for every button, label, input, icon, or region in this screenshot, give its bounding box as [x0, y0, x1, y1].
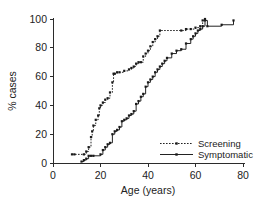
data-point-marker	[121, 120, 123, 122]
data-point-marker	[154, 38, 156, 40]
data-point-marker	[99, 153, 101, 155]
x-tick-label: 40	[142, 169, 154, 181]
data-point-marker	[111, 81, 113, 83]
data-point-marker	[116, 71, 118, 73]
data-point-marker	[109, 142, 111, 144]
data-point-marker	[147, 81, 149, 83]
chart-legend: Screening Symptomatic	[160, 138, 253, 160]
x-tick-label: 0	[50, 169, 56, 181]
data-point-marker	[133, 110, 135, 112]
data-point-marker	[98, 107, 100, 109]
data-point-marker	[133, 65, 135, 67]
data-point-marker	[130, 67, 132, 69]
x-axis-ticks: 020406080	[50, 163, 249, 181]
data-point-marker	[71, 153, 73, 155]
data-point-marker	[90, 155, 92, 157]
data-point-marker	[85, 150, 87, 152]
data-point-marker	[152, 41, 154, 43]
data-point-marker	[116, 129, 118, 131]
data-point-marker	[140, 61, 142, 63]
data-point-marker	[202, 19, 204, 21]
data-point-marker	[137, 100, 139, 102]
data-point-marker	[149, 45, 151, 47]
data-point-marker	[145, 52, 147, 54]
data-point-marker	[111, 133, 113, 135]
data-point-marker	[80, 160, 82, 162]
data-point-marker	[190, 38, 192, 40]
data-point-marker	[197, 29, 199, 31]
data-point-marker	[91, 130, 93, 132]
data-point-marker	[90, 136, 92, 138]
data-point-marker	[128, 68, 130, 70]
legend-entry-symptomatic: Symptomatic	[160, 149, 253, 160]
data-point-marker	[107, 143, 109, 145]
data-point-marker	[185, 42, 187, 44]
data-point-marker	[107, 97, 109, 99]
data-point-marker	[102, 101, 104, 103]
data-point-marker	[140, 96, 142, 98]
data-point-marker	[73, 153, 75, 155]
data-point-marker	[114, 73, 116, 75]
y-axis-title: % cases	[6, 71, 18, 111]
y-tick-label: 100	[29, 13, 47, 25]
data-point-marker	[123, 70, 125, 72]
data-point-marker	[185, 28, 187, 30]
data-point-marker	[161, 63, 163, 65]
data-point-marker	[97, 114, 99, 116]
data-point-marker	[164, 60, 166, 62]
data-point-marker	[128, 114, 130, 116]
data-point-marker	[154, 71, 156, 73]
data-point-marker	[156, 35, 158, 37]
data-point-marker	[232, 19, 234, 21]
x-tick-label: 80	[237, 169, 249, 181]
data-point-marker	[118, 126, 120, 128]
cumulative-age-distribution-chart: 020406080100 020406080 Age (years) % cas…	[0, 0, 268, 201]
legend-marker-screening-icon	[175, 142, 177, 144]
data-point-marker	[152, 76, 154, 78]
y-axis-ticks: 020406080100	[29, 13, 53, 169]
data-point-marker	[126, 117, 128, 119]
x-tick-label: 20	[95, 169, 107, 181]
data-point-marker	[175, 50, 177, 52]
data-point-marker	[95, 119, 97, 121]
chart-figure: 020406080100 020406080 Age (years) % cas…	[0, 0, 268, 201]
y-tick-label: 0	[41, 157, 47, 169]
data-point-marker	[166, 57, 168, 59]
data-point-marker	[92, 155, 94, 157]
data-point-marker	[118, 71, 120, 73]
data-point-marker	[135, 103, 137, 105]
data-point-marker	[199, 25, 201, 27]
data-point-marker	[123, 119, 125, 121]
data-point-marker	[130, 113, 132, 115]
data-point-marker	[159, 65, 161, 67]
data-point-marker	[102, 149, 104, 151]
data-point-marker	[137, 61, 139, 63]
data-point-marker	[88, 146, 90, 148]
data-point-marker	[142, 55, 144, 57]
data-point-marker	[202, 25, 204, 27]
legend-label-screening: Screening	[198, 138, 241, 149]
legend-label-symptomatic: Symptomatic	[198, 149, 253, 160]
data-point-marker	[194, 32, 196, 34]
data-point-marker	[114, 130, 116, 132]
data-point-marker	[192, 35, 194, 37]
data-point-marker	[206, 25, 208, 27]
data-point-marker	[109, 91, 111, 93]
data-point-marker	[149, 78, 151, 80]
series-markers-screening	[71, 18, 206, 156]
data-point-marker	[156, 68, 158, 70]
series-line-screening	[72, 19, 205, 154]
y-tick-label: 60	[35, 70, 47, 82]
x-tick-label: 60	[190, 169, 202, 181]
data-point-marker	[142, 93, 144, 95]
data-point-marker	[145, 86, 147, 88]
data-point-marker	[171, 52, 173, 54]
data-point-marker	[92, 124, 94, 126]
data-point-marker	[194, 27, 196, 29]
x-axis-title: Age (years)	[121, 184, 175, 196]
data-point-marker	[104, 146, 106, 148]
data-point-marker	[204, 19, 206, 21]
legend-marker-symptomatic-icon	[175, 153, 177, 155]
legend-entry-screening: Screening	[160, 138, 241, 149]
data-point-marker	[147, 50, 149, 52]
